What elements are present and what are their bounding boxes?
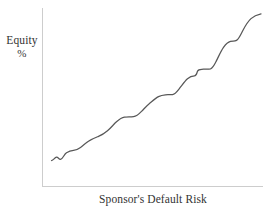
chart-canvas [0, 0, 278, 213]
chart-figure: Equity % Sponsor's Default Risk [0, 0, 278, 213]
x-axis-label: Sponsor's Default Risk [42, 193, 264, 205]
y-axis-label-unit: % [2, 47, 42, 60]
y-axis-label: Equity % [2, 34, 42, 60]
y-axis-label-text: Equity [6, 34, 37, 46]
equity-risk-curve [52, 14, 262, 161]
